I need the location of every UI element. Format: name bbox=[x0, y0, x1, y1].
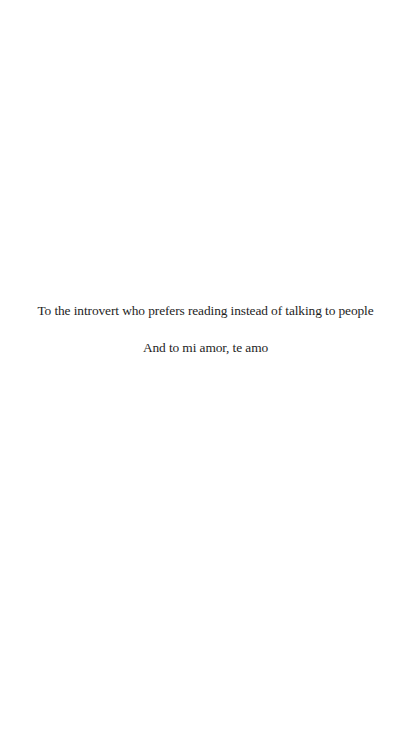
dedication-line-1: To the introvert who prefers reading ins… bbox=[0, 303, 411, 319]
dedication-page: To the introvert who prefers reading ins… bbox=[0, 0, 411, 731]
dedication-line-2: And to mi amor, te amo bbox=[0, 340, 411, 356]
